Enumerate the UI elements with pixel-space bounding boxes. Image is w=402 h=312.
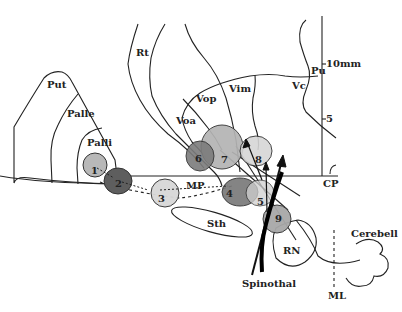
bg-base <box>0 176 118 184</box>
cerebellum-outline <box>346 239 388 286</box>
label-ml: ML <box>328 291 346 301</box>
target-label-8: 8 <box>255 155 262 165</box>
scale-5: 5 <box>326 114 333 124</box>
label-pu: Pu <box>311 66 326 76</box>
label-palle: Palle <box>67 109 95 119</box>
scale-10mm: 10mm <box>326 59 361 69</box>
target-label-5: 5 <box>257 197 264 207</box>
target-label-9: 9 <box>275 214 282 224</box>
label-rn: RN <box>283 246 300 256</box>
target-3 <box>151 179 179 207</box>
target-label-3: 3 <box>158 194 165 204</box>
target-label-2: 2 <box>115 179 122 189</box>
label-vim: Vim <box>229 84 251 94</box>
anatomical-diagram: Put Palle Palli Rt Voa Vop Vim Vc Pu 10m… <box>0 0 402 312</box>
label-cp: CP <box>323 179 338 189</box>
label-rt: Rt <box>136 48 149 58</box>
label-voa: Voa <box>176 116 196 126</box>
cerebellar-tract <box>296 220 360 263</box>
label-spinothal: Spinothal <box>242 279 296 289</box>
target-label-7: 7 <box>221 155 228 165</box>
label-cerebell: Cerebell <box>351 229 398 239</box>
target-label-4: 4 <box>226 189 233 199</box>
label-palli: Palli <box>87 138 112 148</box>
target-label-1: 1 <box>91 166 98 176</box>
label-sth: Sth <box>207 219 226 229</box>
label-vc: Vc <box>292 81 306 91</box>
target-label-6: 6 <box>195 154 202 164</box>
label-vop: Vop <box>196 94 217 104</box>
label-put: Put <box>47 80 66 90</box>
label-mp: MP <box>186 181 205 191</box>
